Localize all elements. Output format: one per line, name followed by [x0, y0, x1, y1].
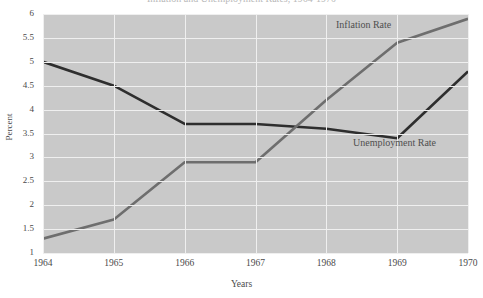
gridline-vertical [185, 14, 186, 253]
x-axis-tick: 1969 [374, 258, 420, 268]
y-axis-tick: 6 [0, 8, 34, 18]
chart-title-clipped: Inflation and Unemployment Rates, 1964-1… [0, 0, 483, 5]
x-axis-tick: 1966 [162, 258, 208, 268]
x-axis-tick: 1965 [91, 258, 137, 268]
y-axis-tick: 5.5 [0, 32, 34, 42]
gridline-vertical [468, 14, 469, 253]
y-axis-tick: 4.5 [0, 80, 34, 90]
plot-area [43, 14, 468, 253]
x-axis-tick: 1968 [303, 258, 349, 268]
x-axis-tick: 1967 [233, 258, 279, 268]
gridline-vertical [256, 14, 257, 253]
gridline-vertical [114, 14, 115, 253]
series-label-inflation: Inflation Rate [336, 19, 391, 30]
x-axis-title: Years [0, 279, 483, 289]
gridline-vertical [43, 14, 44, 253]
gridline-vertical [326, 14, 327, 253]
x-axis-tick: 1970 [445, 258, 483, 268]
gridline-vertical [397, 14, 398, 253]
y-axis-tick: 2 [0, 199, 34, 209]
x-axis-tick: 1964 [20, 258, 66, 268]
y-axis-title: Percent [4, 97, 14, 157]
y-axis-tick: 5 [0, 56, 34, 66]
gridline-horizontal [43, 253, 468, 254]
chart-figure: Inflation and Unemployment Rates, 1964-1… [0, 0, 483, 298]
y-axis-tick: 1.5 [0, 223, 34, 233]
x-axis-tick-labels: 1964196519661967196819691970 [0, 258, 483, 274]
y-axis-tick: 2.5 [0, 175, 34, 185]
series-label-unemployment: Unemployment Rate [353, 137, 436, 148]
y-axis-tick: 1 [0, 247, 34, 257]
